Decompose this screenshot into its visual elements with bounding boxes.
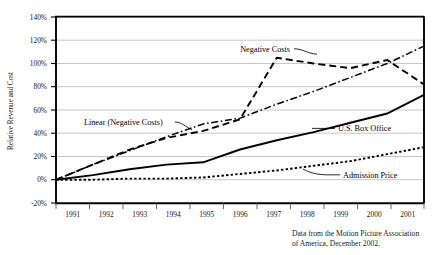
series-label-linear-negative-costs: Linear (Negative Costs) xyxy=(84,118,163,127)
x-tick-label: 1996 xyxy=(233,210,248,219)
y-tick-label: 60% xyxy=(33,106,47,115)
caption-line-2: of America, December 2002. xyxy=(292,239,380,248)
x-tick-label: 1999 xyxy=(333,210,348,219)
series-label-negative-costs: Negative Costs xyxy=(240,45,290,54)
x-tick-label: 2001 xyxy=(400,210,415,219)
x-tick-label: 1993 xyxy=(132,210,147,219)
x-tick-label: 1994 xyxy=(166,210,181,219)
y-tick-label: 20% xyxy=(33,152,47,161)
caption-line-1: Data from the Motion Picture Association xyxy=(292,229,419,238)
relative-revenue-and-cost-line-chart: 140% 120% 100% 80% 60% 40% 20% 0% -20% R… xyxy=(0,0,439,255)
y-tick-label: 140% xyxy=(30,13,47,22)
x-tick-label: 2000 xyxy=(367,210,382,219)
x-tick-label: 1998 xyxy=(300,210,315,219)
x-tick-label: 1995 xyxy=(199,210,214,219)
y-axis-title: Relative Revenue and Cost xyxy=(7,72,15,150)
series-label-admission-price: Admission Price xyxy=(343,171,398,180)
series-label-us-box-office: U.S. Box Office xyxy=(338,124,391,133)
chart-container: 140% 120% 100% 80% 60% 40% 20% 0% -20% R… xyxy=(0,0,439,255)
y-tick-label: 100% xyxy=(30,59,47,68)
y-tick-label: 40% xyxy=(33,129,47,138)
y-tick-label: 120% xyxy=(30,36,47,45)
y-tick-label: 0% xyxy=(37,175,47,184)
y-tick-label: -20% xyxy=(31,199,47,208)
y-tick-label: 80% xyxy=(33,82,47,91)
x-tick-label: 1992 xyxy=(99,210,114,219)
x-tick-label: 1991 xyxy=(65,210,80,219)
x-tick-label: 1997 xyxy=(266,210,281,219)
